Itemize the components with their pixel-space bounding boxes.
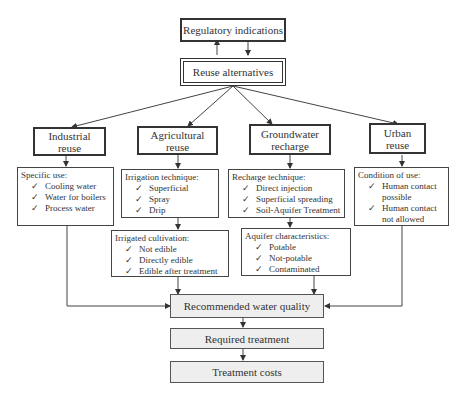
check-icon: ✓ [135,194,149,205]
check-icon: ✓ [31,181,45,192]
regulatory-indications-box: Regulatory indications [180,18,286,42]
list-item: ✓Not edible [115,244,225,255]
category-label: Urban [384,127,412,139]
required-treatment-label: Required treatment [205,333,290,345]
check-icon: ✓ [135,183,149,194]
urban-detail-box: Condition of use: ✓Human contact possibl… [354,167,449,226]
list-item: ✓Cooling water [21,181,110,192]
industrial-reuse-box: Industrial reuse [33,127,106,156]
check-icon: ✓ [31,203,45,214]
detail-title: Irrigation technique: [125,172,215,183]
cultivation-detail-box: Irrigated cultivation: ✓Not edible ✓Dire… [111,230,229,277]
check-icon: ✓ [368,181,382,192]
list-item: ✓Directly edible [115,255,225,266]
list-item: ✓Soil-Aquifer Treatment [232,205,341,216]
list-item: ✓Contaminated [245,264,347,275]
required-treatment-box: Required treatment [170,328,324,349]
reuse-alternatives-label: Reuse alternatives [193,66,273,78]
industrial-detail-box: Specific use: ✓Cooling water ✓Water for … [17,167,114,226]
category-label: reuse [166,141,189,153]
list-item: ✓Superficial spreading [232,194,341,205]
agricultural-detail-box: Irrigation technique: ✓Superficial ✓Spra… [121,169,219,218]
recommended-quality-box: Recommended water quality [170,294,324,318]
category-label: Groundwater [261,128,319,140]
treatment-costs-box: Treatment costs [170,361,324,383]
list-item: ✓Not-potable [245,253,347,264]
urban-reuse-box: Urban reuse [369,123,426,154]
detail-title: Condition of use: [358,170,445,181]
category-label: reuse [386,139,409,151]
list-item: ✓Process water [21,203,110,214]
check-icon: ✓ [368,203,382,214]
check-icon: ✓ [242,183,256,194]
list-item: ✓Spray [125,194,215,205]
detail-title: Irrigated cultivation: [115,233,225,244]
list-item: ✓Superficial [125,183,215,194]
check-icon: ✓ [31,192,45,203]
list-item: ✓Potable [245,242,347,253]
aquifer-detail-box: Aquifer characteristics: ✓Potable ✓Not-p… [241,228,351,276]
agricultural-reuse-box: Agricultural reuse [137,126,218,155]
category-label: Industrial [48,130,90,142]
category-label: Agricultural [151,129,205,141]
check-icon: ✓ [255,264,269,275]
check-icon: ✓ [242,194,256,205]
detail-title: Specific use: [21,170,110,181]
check-icon: ✓ [125,244,139,255]
groundwater-recharge-box: Groundwater recharge [249,124,331,155]
recommended-quality-label: Recommended water quality [184,300,310,312]
detail-title: Recharge technique: [232,172,341,183]
check-icon: ✓ [242,205,256,216]
check-icon: ✓ [255,242,269,253]
reuse-alternatives-box: Reuse alternatives [180,58,286,86]
check-icon: ✓ [135,205,149,216]
list-item: ✓Human contact possible [358,181,445,203]
check-icon: ✓ [125,266,139,277]
list-item: ✓Human contact not allowed [358,203,445,225]
list-item: ✓Edible after treatment [115,266,225,277]
category-label: reuse [58,142,81,154]
list-item: ✓Water for boilers [21,192,110,203]
regulatory-indications-label: Regulatory indications [183,24,283,36]
detail-title: Aquifer characteristics: [245,231,347,242]
check-icon: ✓ [255,253,269,264]
list-item: ✓Direct injection [232,183,341,194]
check-icon: ✓ [125,255,139,266]
list-item: ✓Drip [125,205,215,216]
category-label: recharge [271,140,309,152]
groundwater-detail-box: Recharge technique: ✓Direct injection ✓S… [228,169,345,218]
treatment-costs-label: Treatment costs [212,366,282,378]
